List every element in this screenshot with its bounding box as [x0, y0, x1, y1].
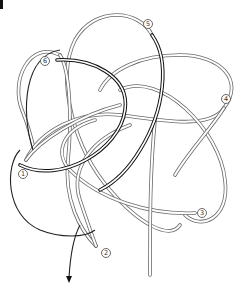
- arrow-down-icon: [66, 276, 72, 283]
- svg-text:3: 3: [200, 209, 204, 217]
- cord-tab-2: [77, 125, 130, 246]
- svg-text:5: 5: [146, 20, 150, 28]
- label-3: 3: [198, 209, 207, 218]
- svg-text:2: 2: [104, 249, 108, 257]
- label-4: 4: [222, 95, 231, 104]
- cord-loop-4: [26, 55, 232, 160]
- label-1: 1: [19, 170, 28, 179]
- knot-diagram: 1 2 3 4 5 6: [0, 0, 243, 284]
- label-2: 2: [102, 249, 111, 258]
- label-5: 5: [144, 20, 153, 29]
- working-strand-lead: [69, 225, 80, 278]
- svg-text:1: 1: [21, 170, 25, 178]
- cord-tab-4: [175, 108, 224, 175]
- svg-text:4: 4: [224, 95, 228, 103]
- cord-vertical: [150, 120, 155, 275]
- label-6: 6: [41, 57, 50, 66]
- svg-text:6: 6: [43, 57, 47, 65]
